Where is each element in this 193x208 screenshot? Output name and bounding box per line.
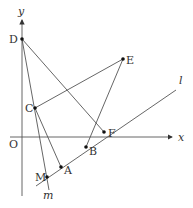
label-A: A xyxy=(63,164,73,177)
segment-DF xyxy=(22,39,104,132)
line-l-label: l xyxy=(179,74,183,87)
line-l xyxy=(36,90,176,186)
point-B xyxy=(84,145,88,149)
segment-EB xyxy=(86,59,123,147)
label-E: E xyxy=(126,54,134,67)
label-M: M xyxy=(35,171,46,184)
label-F: F xyxy=(108,127,116,140)
x-axis-label: x xyxy=(178,131,185,144)
label-C: C xyxy=(25,102,33,115)
point-F xyxy=(102,130,106,134)
point-C xyxy=(33,106,37,110)
line-m-label: m xyxy=(43,189,53,202)
point-E xyxy=(121,57,125,61)
label-B: B xyxy=(89,145,97,158)
origin-label: O xyxy=(9,138,18,151)
segment-CE xyxy=(35,59,123,108)
geometry-diagram: y x O l m D C E F B A M xyxy=(0,0,193,208)
point-A xyxy=(59,165,63,169)
label-D: D xyxy=(9,33,18,46)
segment-CA xyxy=(35,108,61,167)
point-D xyxy=(20,37,24,41)
y-axis-label: y xyxy=(17,5,25,18)
